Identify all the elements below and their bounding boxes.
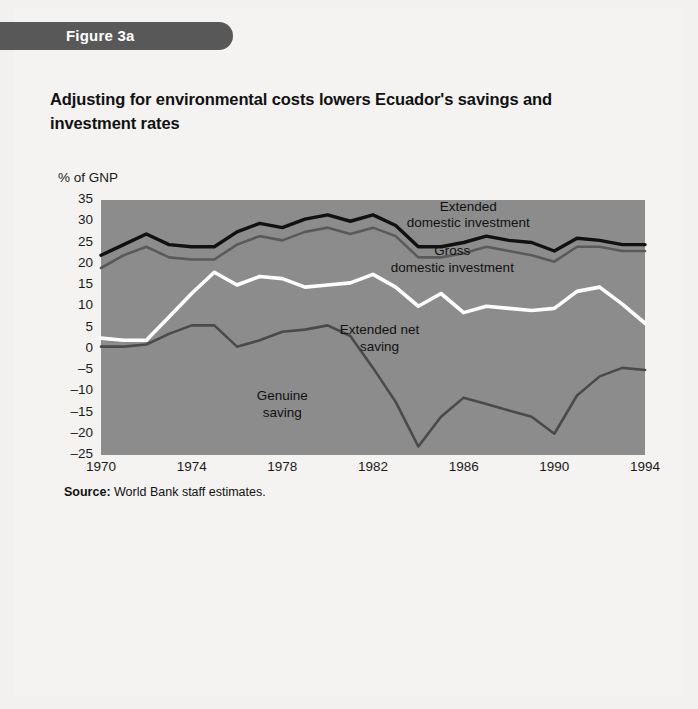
x-tick-label: 1994 [615,459,675,474]
series-annotation: Gross domestic investment [391,243,514,277]
y-tick-label: 15 [57,276,93,291]
x-tick-label: 1970 [71,459,131,474]
series-annotation: Extended domestic investment [407,199,530,233]
x-tick-label: 1978 [252,459,312,474]
series-annotation: Extended net saving [340,322,420,356]
x-tick-label: 1986 [434,459,494,474]
y-tick-label: 35 [57,191,93,206]
y-tick-label: 0 [57,340,93,355]
y-tick-label: –20 [57,425,93,440]
x-tick-label: 1974 [162,459,222,474]
y-tick-label: –10 [57,382,93,397]
x-tick-label: 1982 [343,459,403,474]
y-tick-label: –5 [57,361,93,376]
y-tick-label: 5 [57,319,93,334]
source-note: Source: World Bank staff estimates. [64,485,266,499]
source-label: Source: [64,485,111,499]
figure-page: Figure 3a Adjusting for environmental co… [0,0,698,709]
y-tick-label: 25 [57,234,93,249]
y-tick-label: 10 [57,297,93,312]
source-text: World Bank staff estimates. [114,485,266,499]
series-annotation: Genuine saving [257,388,308,422]
y-tick-label: –15 [57,404,93,419]
figure-tab-label: Figure 3a [66,27,135,44]
y-tick-label: 20 [57,255,93,270]
page-title: Adjusting for environmental costs lowers… [50,88,620,136]
y-axis-unit-label: % of GNP [58,170,118,185]
y-tick-label: 30 [57,212,93,227]
x-tick-label: 1990 [524,459,584,474]
